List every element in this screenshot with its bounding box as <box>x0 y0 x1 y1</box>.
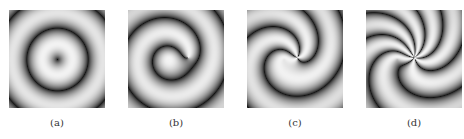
caption-d: (d) <box>366 116 462 130</box>
caption-c: (c) <box>247 116 343 130</box>
fringe-image-d <box>366 10 462 108</box>
fringe-image-b <box>128 10 224 108</box>
panel-b-singularity-weak <box>128 10 224 108</box>
fringe-image-c <box>247 10 343 108</box>
caption-b: (b) <box>128 116 224 130</box>
fringe-image-a <box>9 10 105 108</box>
figure: (a) (b) (c) (d) <box>0 0 464 139</box>
panel-d-singularity-strong <box>366 10 462 108</box>
panel-a-concentric-rings <box>9 10 105 108</box>
panel-c-singularity-medium <box>247 10 343 108</box>
caption-a: (a) <box>9 116 105 130</box>
